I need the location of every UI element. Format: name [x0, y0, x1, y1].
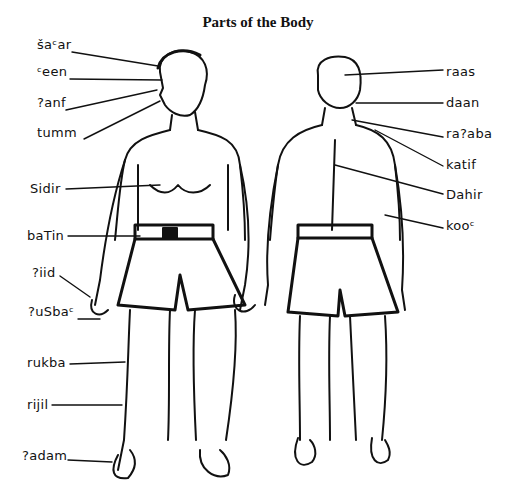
- label-nose: ?anf: [37, 96, 66, 110]
- front-leader-lines: [52, 52, 162, 462]
- back-leader-lines: [335, 70, 443, 228]
- label-shoulder: katif: [446, 158, 476, 172]
- label-hair: šaᶜar: [37, 38, 71, 52]
- label-eye: ᶜeen: [37, 65, 67, 79]
- label-ear: daan: [446, 96, 480, 110]
- back-figure: [265, 57, 405, 465]
- label-knee: rukba: [27, 356, 66, 370]
- label-belly: baTin: [27, 229, 64, 243]
- label-elbow: kooᶜ: [446, 219, 475, 233]
- label-hand: ?iid: [32, 266, 56, 280]
- label-leg: rijil: [27, 398, 48, 412]
- label-head: raas: [446, 65, 475, 79]
- label-foot: ?adam: [22, 449, 67, 463]
- label-chest: Sidir: [30, 182, 61, 196]
- label-neck: ra?aba: [446, 127, 492, 141]
- front-figure: [91, 51, 255, 478]
- label-back: Dahir: [446, 188, 483, 202]
- body-illustration: [0, 0, 516, 496]
- label-mouth: tumm: [37, 126, 77, 140]
- label-finger: ?uSbaᶜ: [28, 305, 74, 319]
